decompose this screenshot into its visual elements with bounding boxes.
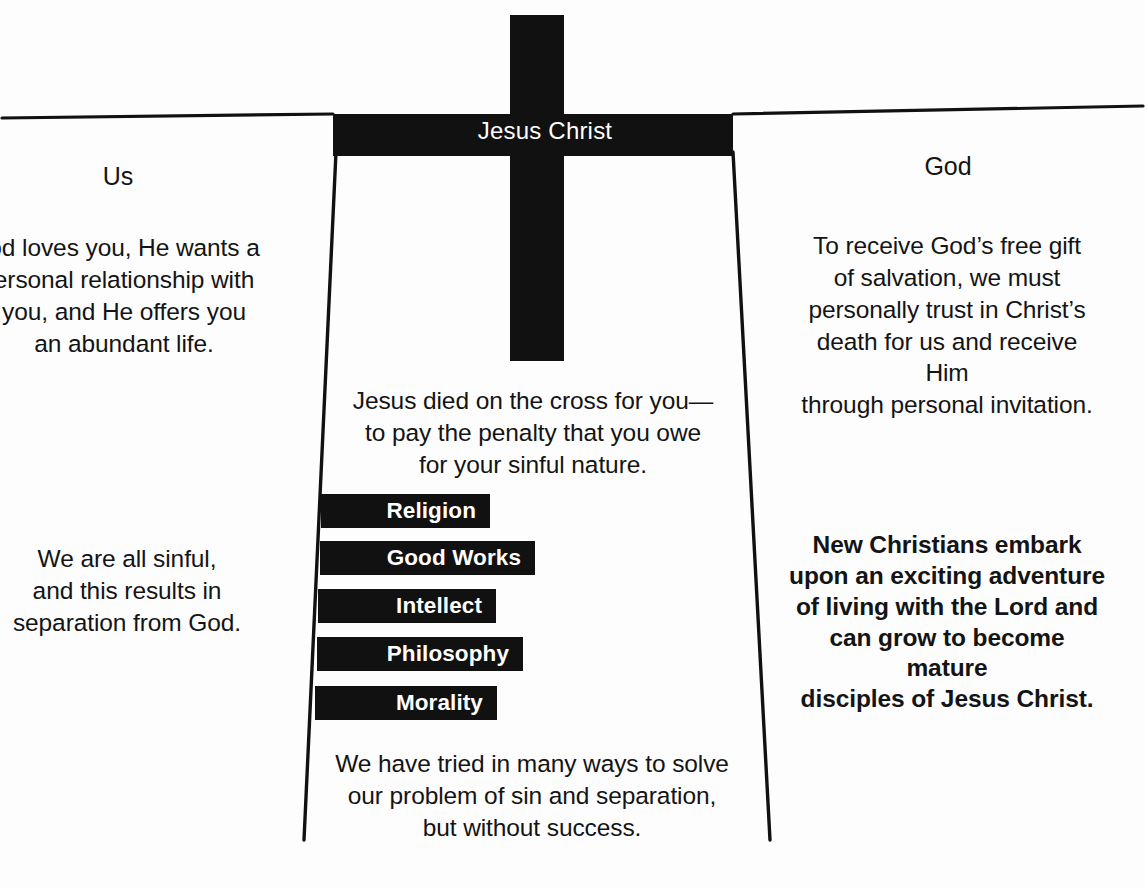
center-top-text: Jesus died on the cross for you— to pay … (333, 385, 733, 481)
left-heading-us: Us (18, 163, 218, 191)
left-top-text: od loves you, He wants a ersonal relatio… (0, 232, 274, 359)
center-bottom-text: We have tried in many ways to solve our … (322, 748, 742, 844)
obstacle-bar-label: Morality (396, 690, 483, 716)
obstacle-bar-label: Intellect (396, 593, 482, 619)
left-middle-text: We are all sinful, and this results in s… (0, 543, 262, 639)
right-top-text: To receive God’s free gift of salvation,… (797, 230, 1097, 421)
cross-vertical-beam (510, 15, 564, 361)
cross-label: Jesus Christ (400, 117, 690, 145)
right-bold-text: New Christians embark upon an exciting a… (786, 530, 1108, 715)
horizon-line-left (2, 114, 333, 118)
obstacle-bar: Religion (321, 494, 490, 528)
obstacle-bar: Good Works (320, 541, 535, 575)
obstacle-bar-label: Religion (386, 498, 476, 524)
horizon-line-right (733, 106, 1143, 114)
obstacle-bar: Intellect (318, 589, 496, 623)
obstacle-bar-label: Good Works (387, 545, 521, 571)
obstacle-bar-label: Philosophy (387, 641, 509, 667)
bridge-illustration: Jesus Christ Us od loves you, He wants a… (0, 0, 1145, 888)
right-heading-god: God (853, 153, 1043, 181)
chasm-wall-right (733, 152, 770, 840)
obstacle-bar: Philosophy (317, 637, 523, 671)
obstacle-bar: Morality (315, 686, 497, 720)
